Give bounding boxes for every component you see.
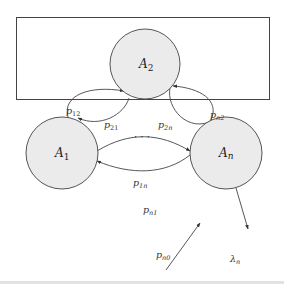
edge-p21 [78,98,129,121]
ellipsis: · · · [134,131,150,142]
node-a2: A2 [110,29,180,99]
edge-pn1 [97,155,190,171]
edge-p2n [170,88,214,124]
label-p2n: p2n [158,119,172,132]
edge-lambda-n-outflow [236,188,248,229]
label-lambda-n: λn [229,253,240,266]
edge-pn0-inflow [166,223,200,270]
node-an: An [190,117,262,189]
label-p1n: p1n [133,177,147,190]
label-pn1: pn1 [143,204,157,217]
label-p21: p21 [104,119,118,132]
node-a1: A1 [26,117,98,189]
state-transition-diagram: A2 A1 An p12 p21 pn2 p2n p1n pn1 pn0 λn … [0,0,284,284]
label-pn0: pn0 [156,249,170,262]
